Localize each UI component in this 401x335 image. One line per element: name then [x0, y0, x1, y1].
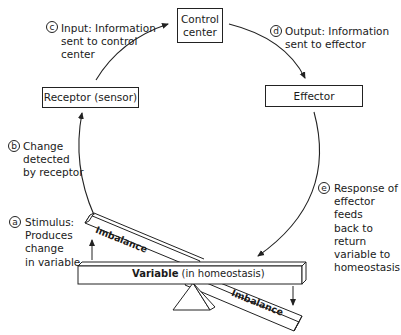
step-e-marker: e [318, 182, 330, 194]
step-b-text: Change detected by receptor [23, 140, 84, 180]
control-center-label: Control center [178, 13, 222, 39]
step-a-text: Stimulus: Produces change in variable [25, 216, 80, 269]
receptor-box: Receptor (sensor) [42, 87, 139, 108]
receptor-label: Receptor (sensor) [44, 91, 137, 104]
step-c-text: Input: Information sent to control cente… [61, 22, 156, 62]
arrow-feedback [258, 112, 320, 256]
step-e-text: Response of effector feeds back to retur… [334, 182, 401, 274]
control-center-box: Control center [177, 8, 223, 43]
step-d-text: Output: Information sent to effector [285, 25, 389, 51]
step-a-marker: a [9, 216, 21, 228]
step-c-marker: c [46, 21, 58, 33]
variable-label: Variable (in homeostasis) [132, 268, 265, 279]
effector-label: Effector [294, 90, 335, 103]
step-b-marker: b [8, 140, 20, 152]
effector-box: Effector [265, 85, 363, 107]
step-d-marker: d [270, 25, 282, 37]
imbalance-beam-left [85, 213, 204, 269]
